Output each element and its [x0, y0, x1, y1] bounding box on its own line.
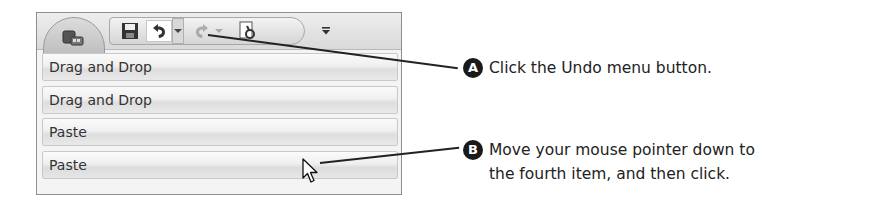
callout-a-text: Click the Undo menu button. — [489, 56, 712, 80]
customize-toolbar-button[interactable] — [319, 23, 333, 39]
customize-dropdown-icon — [321, 26, 331, 36]
save-button[interactable] — [118, 20, 142, 42]
undo-menu-item[interactable]: Drag and Drop — [42, 53, 398, 81]
callout-b: B Move your mouse pointer down to the fo… — [463, 138, 755, 186]
undo-menu: Drag and Drop Drag and Drop Paste Paste — [42, 53, 398, 183]
redo-icon — [193, 22, 211, 40]
undo-menu-item[interactable]: Paste — [42, 118, 398, 146]
redo-button[interactable] — [190, 20, 214, 42]
screenshot-frame: Drag and Drop Drag and Drop Paste Paste — [36, 12, 402, 195]
chevron-down-icon — [215, 28, 223, 34]
callout-b-badge: B — [463, 140, 483, 160]
callout-b-text-line1: Move your mouse pointer down to — [489, 138, 755, 162]
chevron-down-icon — [174, 28, 182, 34]
undo-icon — [150, 22, 168, 40]
mouse-pointer-icon — [302, 158, 320, 184]
qat-button-group — [109, 17, 305, 45]
save-icon — [121, 22, 139, 40]
undo-menu-item[interactable]: Drag and Drop — [42, 86, 398, 114]
redo-menu-button[interactable] — [214, 20, 224, 42]
undo-button[interactable] — [146, 20, 172, 42]
office-logo-icon — [62, 30, 86, 46]
undo-menu-button[interactable] — [172, 18, 184, 44]
quick-access-toolbar — [37, 13, 401, 50]
office-button[interactable] — [43, 17, 105, 57]
undo-menu-item[interactable]: Paste — [42, 151, 398, 179]
callout-a-badge: A — [463, 58, 483, 78]
callout-a: A Click the Undo menu button. — [463, 56, 712, 80]
callout-b-text-line2: the fourth item, and then click. — [489, 162, 755, 186]
